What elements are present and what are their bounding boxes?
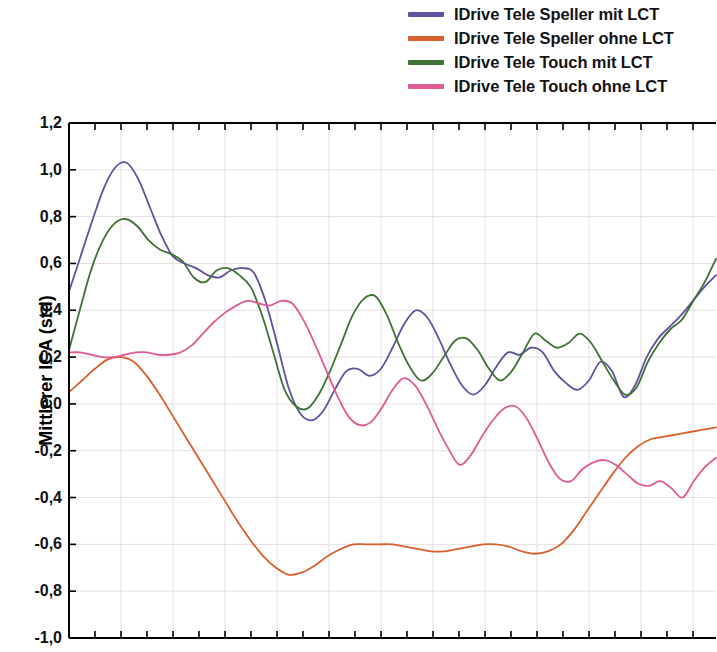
plot-area [0,0,717,652]
chart-figure: IDrive Tele Speller mit LCTIDrive Tele S… [0,0,717,652]
data-curves [69,162,716,575]
axis-frame [69,123,716,638]
gridlines [69,123,716,638]
